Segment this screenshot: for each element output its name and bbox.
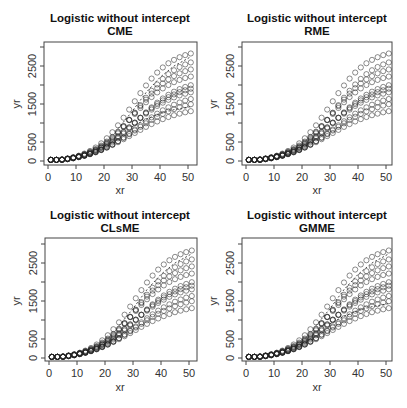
y-tick-label: 1500 xyxy=(224,92,236,116)
y-tick-label: 0 xyxy=(27,355,39,361)
x-tick-label: 20 xyxy=(296,367,308,379)
y-tick-label: 2500 xyxy=(27,251,39,275)
panel-rme: Logistic without intercept RME xr yr 010… xyxy=(203,0,407,204)
x-tick-label: 10 xyxy=(71,367,83,379)
x-tick-label: 10 xyxy=(268,367,280,379)
y-tick-label: 500 xyxy=(224,133,236,151)
y-tick-label: 500 xyxy=(26,133,38,151)
y-axis-label: yr xyxy=(207,99,219,109)
data-points xyxy=(246,51,391,163)
x-tick-label: 0 xyxy=(45,171,51,183)
y-tick-label: 2500 xyxy=(26,54,38,78)
x-tick-label: 30 xyxy=(126,171,138,183)
y-tick-label: 500 xyxy=(27,330,39,348)
x-tick-label: 30 xyxy=(324,367,336,379)
x-tick-label: 40 xyxy=(155,367,167,379)
plot-area: 01020304050050015002500 xyxy=(26,42,197,183)
x-tick-label: 30 xyxy=(127,367,139,379)
panel-title-line2: GMME xyxy=(299,222,335,234)
panel-title-line2: CLsME xyxy=(101,222,140,234)
panel-title-line1: Logistic without intercept xyxy=(247,209,387,221)
plot-area: 01020304050050015002500 xyxy=(27,238,197,379)
panel-title-line1: Logistic without intercept xyxy=(50,209,190,221)
panel-title-line2: RME xyxy=(304,25,330,37)
x-tick-label: 0 xyxy=(243,367,249,379)
chart-cme: Logistic without intercept CME xr yr 010… xyxy=(0,0,204,204)
x-tick-label: 50 xyxy=(380,367,392,379)
x-axis-label: xr xyxy=(312,381,322,393)
y-tick-label: 1500 xyxy=(224,289,236,313)
chart-clsme: Logistic without intercept CLsME xr yr 0… xyxy=(0,204,204,408)
x-tick-label: 50 xyxy=(182,171,194,183)
y-tick-label: 1500 xyxy=(26,92,38,116)
panel-cme: Logistic without intercept CME xr yr 010… xyxy=(0,0,204,204)
y-axis-label: yr xyxy=(207,296,219,306)
x-axis-label: xr xyxy=(115,184,125,196)
x-tick-label: 50 xyxy=(183,367,195,379)
y-tick-label: 1500 xyxy=(27,289,39,313)
y-axis-label: yr xyxy=(10,99,22,109)
chart-rme: Logistic without intercept RME xr yr 010… xyxy=(203,0,407,204)
x-tick-label: 0 xyxy=(243,171,249,183)
x-tick-label: 20 xyxy=(296,171,308,183)
y-tick-label: 2500 xyxy=(224,251,236,275)
plot-area: 01020304050050015002500 xyxy=(224,42,392,183)
x-tick-label: 40 xyxy=(352,367,364,379)
panel-title-line2: CME xyxy=(107,25,133,37)
x-tick-label: 20 xyxy=(98,171,110,183)
y-tick-label: 500 xyxy=(224,330,236,348)
x-axis-label: xr xyxy=(115,381,125,393)
plot-area: 01020304050050015002500 xyxy=(224,238,392,379)
x-tick-label: 20 xyxy=(99,367,111,379)
panel-clsme: Logistic without intercept CLsME xr yr 0… xyxy=(0,204,204,408)
x-tick-label: 40 xyxy=(352,171,364,183)
x-axis-label: xr xyxy=(312,184,322,196)
x-tick-label: 0 xyxy=(46,367,52,379)
plot-frame xyxy=(44,42,197,165)
x-tick-label: 10 xyxy=(268,171,280,183)
panel-title-line1: Logistic without intercept xyxy=(247,12,387,24)
x-tick-label: 40 xyxy=(154,171,166,183)
y-tick-label: 0 xyxy=(26,158,38,164)
panel-gmme: Logistic without intercept GMME xr yr 01… xyxy=(203,204,407,408)
panel-title-line1: Logistic without intercept xyxy=(50,12,190,24)
x-tick-label: 50 xyxy=(380,171,392,183)
x-tick-label: 30 xyxy=(324,171,336,183)
y-tick-label: 2500 xyxy=(224,54,236,78)
y-tick-label: 0 xyxy=(224,355,236,361)
y-axis-label: yr xyxy=(10,296,22,306)
chart-gmme: Logistic without intercept GMME xr yr 01… xyxy=(203,204,407,408)
y-tick-label: 0 xyxy=(224,158,236,164)
x-tick-label: 10 xyxy=(70,171,82,183)
